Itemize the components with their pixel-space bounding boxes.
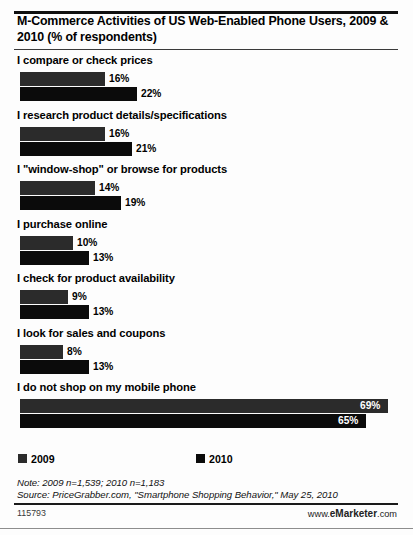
bar-fill-2009 <box>20 72 105 86</box>
bar-group: I "window-shop" or browse for products14… <box>0 163 413 218</box>
bar-value-label: 13% <box>93 360 113 374</box>
bar-group: I do not shop on my mobile phone69%65% <box>0 381 413 436</box>
bar-fill-2010 <box>20 87 137 101</box>
legend-swatch-2009 <box>18 454 27 463</box>
bar-2010 <box>20 305 89 319</box>
bar-value-label: 19% <box>125 196 145 210</box>
bar-value-label: 65% <box>338 414 358 428</box>
bar-value-label: 69% <box>360 399 380 413</box>
bar-chart-plot-area: I compare or check prices16%22%I researc… <box>0 54 413 438</box>
bar-group: I compare or check prices16%22% <box>0 54 413 109</box>
bar-fill-2010 <box>20 360 89 374</box>
bar-fill-2009 <box>20 399 388 413</box>
bar-2010 <box>20 360 89 374</box>
category-label: I look for sales and coupons <box>17 327 165 339</box>
footer-rule <box>14 503 398 505</box>
footer-notes: Note: 2009 n=1,539; 2010 n=1,183 Source:… <box>17 477 405 502</box>
bar-value-label: 22% <box>141 87 161 101</box>
bar-value-label: 21% <box>136 142 156 156</box>
brand-suffix: .com <box>377 509 397 519</box>
bar-fill-2009 <box>20 127 105 141</box>
brand-name: eMarketer <box>330 508 377 519</box>
bar-group: I check for product availability9%13% <box>0 272 413 327</box>
category-label: I "window-shop" or browse for products <box>17 163 227 175</box>
category-label: I research product details/specification… <box>17 109 227 121</box>
chart-title: M-Commerce Activities of US Web-Enabled … <box>17 14 397 45</box>
legend-label: 2010 <box>209 451 233 467</box>
bar-value-label: 8% <box>67 345 82 359</box>
bar-2009 <box>20 290 68 304</box>
bar-fill-2009 <box>20 345 63 359</box>
bar-fill-2009 <box>20 181 95 195</box>
bar-fill-2010 <box>20 196 121 210</box>
header-bottom-rule <box>14 49 398 50</box>
bar-2009 <box>20 127 105 141</box>
bar-fill-2010 <box>20 414 366 428</box>
bar-value-label: 10% <box>77 236 97 250</box>
bar-2010 <box>20 87 137 101</box>
page-bottom-rule <box>0 528 413 529</box>
bar-value-label: 14% <box>99 181 119 195</box>
bar-2010 <box>20 251 89 265</box>
bar-2010 <box>20 414 366 428</box>
bar-2009 <box>20 181 95 195</box>
bar-value-label: 16% <box>109 127 129 141</box>
bar-value-label: 13% <box>93 305 113 319</box>
bar-2009 <box>20 399 388 413</box>
emarketer-brand: www.eMarketer.com <box>308 508 397 519</box>
category-label: I compare or check prices <box>17 54 153 66</box>
bar-group: I purchase online10%13% <box>0 218 413 273</box>
legend-swatch-2010 <box>196 454 205 463</box>
bar-fill-2010 <box>20 305 89 319</box>
bar-group: I research product details/specification… <box>0 109 413 164</box>
emarketer-chart-card: M-Commerce Activities of US Web-Enabled … <box>0 0 413 535</box>
source-line: Source: PriceGrabber.com, "Smartphone Sh… <box>17 489 405 501</box>
chart-legend: 20092010 <box>0 451 413 467</box>
legend-label: 2009 <box>31 451 55 467</box>
category-label: I do not shop on my mobile phone <box>17 381 196 393</box>
bar-fill-2009 <box>20 236 73 250</box>
bar-fill-2010 <box>20 142 132 156</box>
category-label: I purchase online <box>17 218 107 230</box>
category-label: I check for product availability <box>17 272 175 284</box>
bar-2009 <box>20 236 73 250</box>
bar-group: I look for sales and coupons8%13% <box>0 327 413 382</box>
bar-value-label: 9% <box>72 290 87 304</box>
bar-fill-2009 <box>20 290 68 304</box>
bar-value-label: 16% <box>109 72 129 86</box>
bar-fill-2010 <box>20 251 89 265</box>
bar-2010 <box>20 196 121 210</box>
bar-value-label: 13% <box>93 251 113 265</box>
chart-id-code: 115793 <box>17 508 46 518</box>
note-line: Note: 2009 n=1,539; 2010 n=1,183 <box>17 477 405 489</box>
bar-2010 <box>20 142 132 156</box>
bar-2009 <box>20 345 63 359</box>
bar-2009 <box>20 72 105 86</box>
brand-prefix: www. <box>308 509 330 519</box>
